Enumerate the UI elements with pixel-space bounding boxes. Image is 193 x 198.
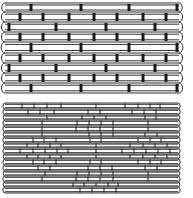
strand-band <box>3 103 180 109</box>
strand-band <box>3 115 180 120</box>
left-loop <box>3 159 5 165</box>
strand-band <box>2 32 183 42</box>
left-loop <box>3 182 5 187</box>
tie-block <box>19 33 22 41</box>
left-loop <box>3 126 5 132</box>
strand-band <box>3 171 180 176</box>
strand-band <box>2 73 183 83</box>
right-loop <box>179 73 183 83</box>
right-loop <box>178 126 180 132</box>
strand-band <box>2 12 183 22</box>
left-loop <box>3 148 5 154</box>
left-loop <box>2 12 6 22</box>
tie-block <box>154 23 157 31</box>
left-loop <box>3 171 5 176</box>
strand-band <box>3 132 180 137</box>
tie-block <box>165 13 168 21</box>
left-loop <box>3 103 5 109</box>
tie-block <box>176 84 179 92</box>
right-loop <box>178 120 180 126</box>
right-loop <box>178 103 180 109</box>
right-loop <box>178 154 180 159</box>
tie-block <box>128 43 131 52</box>
tie-block <box>19 13 22 21</box>
tie-block <box>116 54 119 62</box>
right-loop <box>178 109 180 115</box>
tie-block <box>19 54 22 62</box>
strand-band <box>2 53 183 63</box>
tie-block <box>165 74 168 82</box>
right-loop <box>179 32 183 42</box>
strand-band <box>3 120 180 126</box>
tie-block <box>93 54 96 62</box>
strand-band <box>3 159 180 165</box>
tie-block <box>42 74 45 82</box>
tie-block <box>165 54 168 62</box>
strand-band <box>2 3 182 12</box>
tie-block <box>68 33 71 41</box>
tie-block <box>154 64 157 72</box>
top-weave-panel <box>1 3 183 93</box>
right-loop <box>178 148 180 154</box>
left-loop <box>3 154 5 159</box>
strand-band <box>1 42 183 53</box>
tie-block <box>42 54 45 62</box>
left-loop <box>3 176 5 182</box>
strand-band <box>3 176 180 182</box>
left-loop <box>2 73 6 83</box>
right-loop <box>179 63 183 73</box>
right-loop <box>178 137 180 143</box>
left-loop <box>2 53 6 63</box>
tie-block <box>19 74 22 82</box>
tie-block <box>68 54 71 62</box>
strand-band <box>3 182 180 187</box>
tie-block <box>176 43 179 52</box>
strand-band <box>3 154 180 159</box>
tie-block <box>116 33 119 41</box>
right-loop <box>178 115 180 120</box>
tie-block <box>116 74 119 82</box>
left-loop <box>3 187 5 193</box>
strand-band <box>3 109 180 115</box>
right-loop <box>179 3 182 12</box>
tie-block <box>105 23 108 31</box>
right-loop <box>179 42 183 53</box>
tie-block <box>80 84 83 92</box>
left-loop <box>3 109 5 115</box>
right-loop <box>178 143 180 148</box>
left-loop <box>2 3 5 12</box>
tie-block <box>116 13 119 21</box>
left-loop <box>2 32 6 42</box>
right-loop <box>178 165 180 171</box>
tie-block <box>30 43 33 52</box>
left-loop <box>2 22 6 32</box>
right-loop <box>178 171 180 176</box>
tie-block <box>165 33 168 41</box>
tie-block <box>93 33 96 41</box>
tie-block <box>42 13 45 21</box>
tie-block <box>68 74 71 82</box>
strand-band <box>3 165 180 171</box>
tie-block <box>128 4 131 11</box>
tie-block <box>128 84 131 92</box>
right-loop <box>178 176 180 182</box>
right-loop <box>178 187 180 193</box>
right-loop <box>179 83 183 93</box>
left-loop <box>3 137 5 143</box>
tie-block <box>176 4 179 11</box>
tie-block <box>93 13 96 21</box>
tie-block <box>142 54 145 62</box>
right-loop <box>178 159 180 165</box>
tie-block <box>30 4 33 11</box>
tie-block <box>8 64 11 72</box>
tie-block <box>93 74 96 82</box>
tie-block <box>42 33 45 41</box>
left-loop <box>3 120 5 126</box>
left-loop <box>3 143 5 148</box>
right-loop <box>179 22 183 32</box>
tie-block <box>30 84 33 92</box>
left-loop <box>1 42 5 53</box>
tie-block <box>8 23 11 31</box>
tie-block <box>55 23 58 31</box>
strand-band <box>3 137 180 143</box>
